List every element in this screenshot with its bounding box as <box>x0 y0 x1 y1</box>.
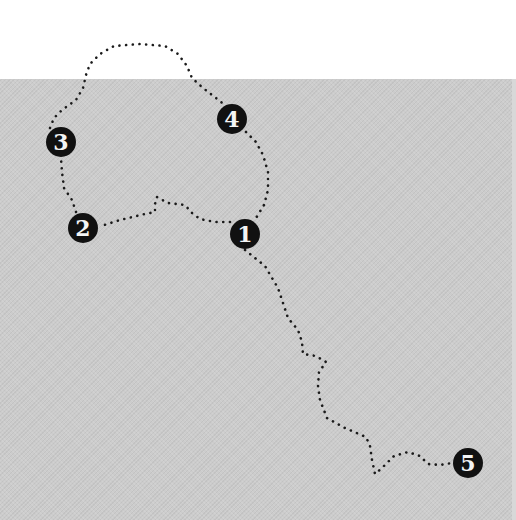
waypoint-marker-3[interactable]: 3 <box>46 127 76 157</box>
map-canvas: 1 2 3 4 5 <box>0 0 516 520</box>
waypoint-marker-4[interactable]: 4 <box>217 104 247 134</box>
route-path <box>0 0 516 520</box>
waypoint-marker-2[interactable]: 2 <box>68 213 98 243</box>
route-segment-1-5 <box>245 250 452 474</box>
route-segment-1-2 <box>101 197 230 226</box>
route-segment-2-3 <box>61 158 76 212</box>
waypoint-marker-5[interactable]: 5 <box>453 448 483 478</box>
route-segment-3-4 <box>50 44 226 128</box>
route-segment-4-1 <box>246 132 268 218</box>
waypoint-marker-1[interactable]: 1 <box>230 219 260 249</box>
